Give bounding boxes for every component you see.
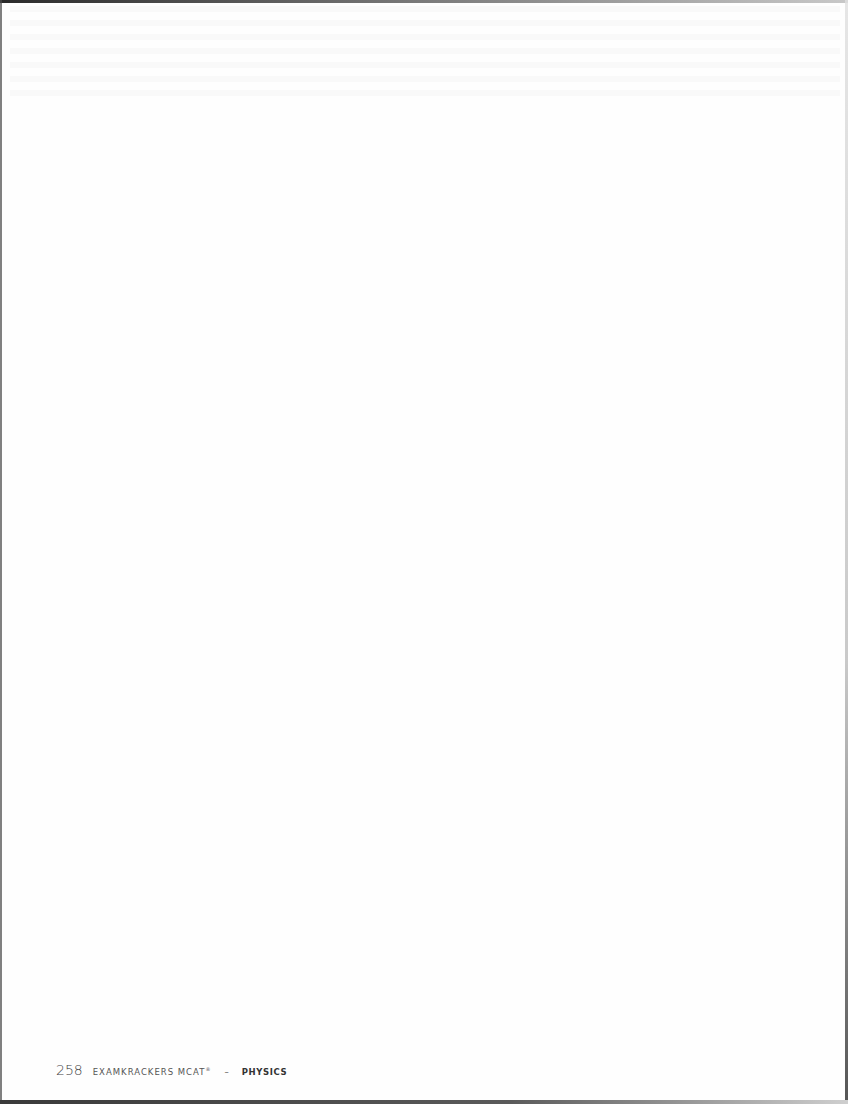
blank-book-page: 258 EXAMKRACKERS MCAT® – PHYSICS	[0, 0, 848, 1104]
page-number: 258	[56, 1062, 83, 1078]
trademark-mark: ®	[205, 1066, 211, 1072]
page-footer: 258 EXAMKRACKERS MCAT® – PHYSICS	[56, 1062, 287, 1078]
scan-edge-bottom	[0, 1100, 848, 1104]
scan-edge-top	[0, 0, 848, 3]
running-title: EXAMKRACKERS MCAT®	[93, 1066, 212, 1077]
book-title: EXAMKRACKERS MCAT	[93, 1067, 206, 1077]
footer-separator: –	[224, 1067, 228, 1077]
subject-label: PHYSICS	[242, 1067, 288, 1077]
scan-edge-left	[0, 0, 2, 1104]
bleed-through-text	[10, 6, 840, 96]
